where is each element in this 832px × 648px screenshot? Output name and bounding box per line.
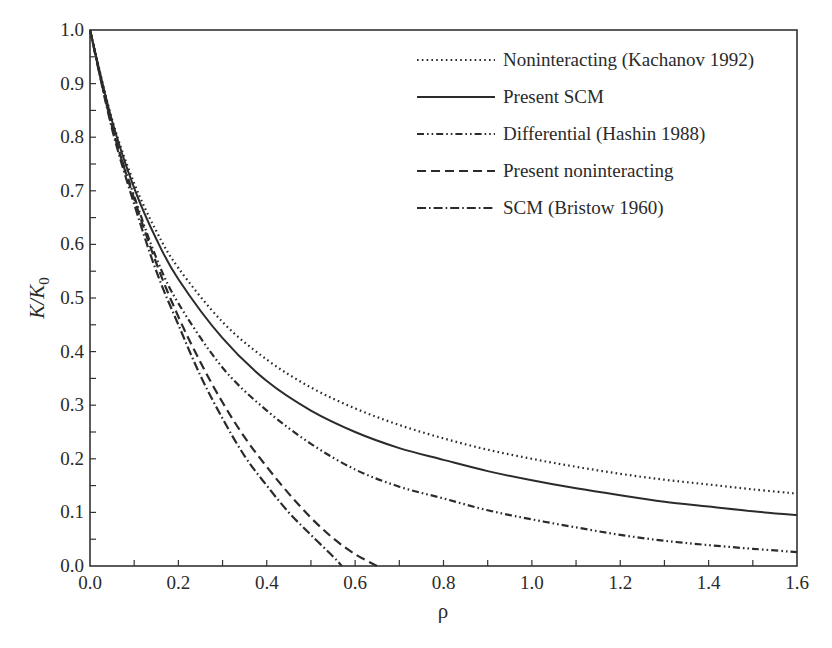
y-tick-label: 0.3 xyxy=(60,394,84,415)
x-axis-label: ρ xyxy=(438,599,448,623)
x-tick-label: 0.4 xyxy=(255,572,279,593)
svg-text:K/K0: K/K0 xyxy=(25,277,52,319)
y-tick-label: 1.0 xyxy=(60,19,84,40)
y-tick-label: 0.5 xyxy=(60,287,84,308)
x-tick-label: 1.6 xyxy=(785,572,809,593)
y-tick-label: 0.4 xyxy=(60,341,84,362)
series-layer xyxy=(90,30,797,566)
y-tick-label: 0.6 xyxy=(60,233,84,254)
y-tick-label: 0.0 xyxy=(60,555,84,576)
y-axis-label-main: K/K xyxy=(25,284,49,320)
kk0-vs-rho-chart: 0.00.20.40.60.81.01.21.41.60.00.10.20.30… xyxy=(0,0,832,648)
x-tick-label: 1.4 xyxy=(697,572,721,593)
plot-frame xyxy=(90,30,797,566)
y-tick-label: 0.9 xyxy=(60,73,84,94)
legend: Noninteracting (Kachanov 1992)Present SC… xyxy=(417,49,754,219)
series-line-4 xyxy=(90,30,342,566)
x-tick-label: 1.0 xyxy=(520,572,544,593)
y-tick-label: 0.1 xyxy=(60,501,84,522)
legend-label-2: Differential (Hashin 1988) xyxy=(503,123,705,145)
x-tick-label: 0.2 xyxy=(167,572,191,593)
y-tick-label: 0.7 xyxy=(60,180,84,201)
series-line-0 xyxy=(90,30,797,494)
legend-label-1: Present SCM xyxy=(503,86,604,107)
x-tick-label: 1.2 xyxy=(608,572,632,593)
x-tick-label: 0.6 xyxy=(343,572,367,593)
legend-label-3: Present noninteracting xyxy=(503,160,674,181)
y-tick-label: 0.2 xyxy=(60,448,84,469)
y-tick-label: 0.8 xyxy=(60,126,84,147)
legend-label-0: Noninteracting (Kachanov 1992) xyxy=(503,49,754,71)
series-line-1 xyxy=(90,30,797,515)
x-tick-label: 0.8 xyxy=(432,572,456,593)
series-line-3 xyxy=(90,30,377,566)
y-axis-label: K/K0 xyxy=(25,277,52,319)
y-axis-label-subscript: 0 xyxy=(36,277,52,285)
legend-label-4: SCM (Bristow 1960) xyxy=(503,197,663,219)
